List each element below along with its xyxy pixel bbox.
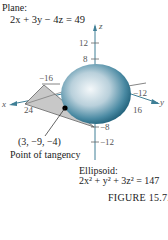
ellipsoid-equation: 2x² + y² + 3z² = 147 [79, 176, 159, 186]
y-tick-16: 16 [133, 106, 142, 115]
x-axis-label: x [2, 100, 6, 109]
y-axis-label: y [160, 98, 164, 107]
ellipsoid [61, 64, 131, 124]
x-axis-arrow-icon [9, 101, 17, 106]
z-axis-label: z [99, 22, 103, 31]
x-tick-24: 24 [24, 106, 33, 115]
tangency-label: Point of tangency [10, 150, 81, 160]
tangency-coords: (3, −9, −4) [18, 137, 61, 147]
z-axis-arrow-icon [93, 24, 97, 31]
z-tick-neg12: −12 [100, 138, 114, 147]
y-tick-neg12: −12 [133, 89, 147, 98]
z-tick-8: 8 [83, 55, 88, 64]
y-axis-arrow-icon [151, 99, 160, 104]
figure-label: FIGURE 15.72 [108, 193, 168, 203]
z-tick-12: 12 [79, 39, 88, 48]
x-tick-neg16: −16 [39, 74, 53, 83]
z-tick-neg8: −8 [100, 123, 110, 132]
